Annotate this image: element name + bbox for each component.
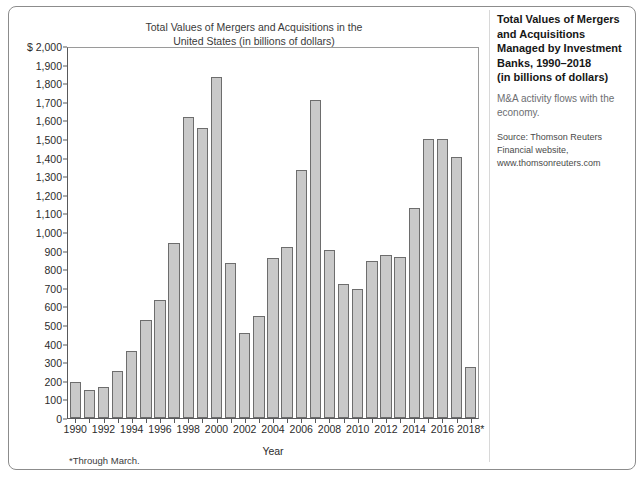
x-axis-tick-label: 2018* [457, 423, 484, 435]
x-axis-tick-mark [428, 419, 429, 423]
y-axis-tick-label: 800 [44, 264, 62, 276]
bar-1998 [183, 117, 194, 417]
bar-1993 [112, 371, 123, 418]
y-axis-tick-label: 1,700 [36, 97, 62, 109]
sidebar-source-line-2: Financial website, [497, 144, 625, 157]
y-axis-tick-label: 1,100 [36, 208, 62, 220]
bar-1991 [84, 390, 95, 418]
bars-layer [68, 47, 479, 418]
sidebar-title-line-3: Managed by Investment [497, 41, 625, 56]
bar-1994 [126, 351, 137, 418]
y-axis-tick-mark [63, 177, 67, 178]
sidebar-source-line-1: Source: Thomson Reuters [497, 131, 625, 144]
y-axis-tick-label: 1,000 [36, 227, 62, 239]
x-axis-tick-label: 2010 [346, 423, 369, 435]
y-axis-tick-label: 1,800 [36, 78, 62, 90]
x-axis-tick-label: 1992 [92, 423, 115, 435]
panel-divider [489, 10, 490, 462]
y-axis-tick-mark [63, 400, 67, 401]
bar-2002 [239, 333, 250, 418]
x-axis-tick-mark [315, 419, 316, 423]
x-axis-tick-mark [400, 419, 401, 423]
chart-title-line-1: Total Values of Mergers and Acquisitions… [54, 20, 454, 34]
bar-2015 [423, 139, 434, 418]
y-axis-tick-label: 600 [44, 301, 62, 313]
bar-2017 [451, 157, 462, 417]
y-axis-tick-mark [63, 140, 67, 141]
x-axis-tick-mark [287, 419, 288, 423]
y-axis-tick-mark [63, 84, 67, 85]
bar-1996 [154, 300, 165, 418]
bar-1992 [98, 387, 109, 418]
y-axis-tick-mark [63, 288, 67, 289]
y-axis-tick-label: 200 [44, 376, 62, 388]
y-axis-tick-label: 1,200 [36, 190, 62, 202]
x-axis-tick-mark [372, 419, 373, 423]
sidebar-source-line-3: www.thomsonreuters.com [497, 157, 625, 170]
y-axis-tick-mark [63, 381, 67, 382]
bar-2008 [324, 250, 335, 417]
x-axis-tick-mark [202, 419, 203, 423]
y-axis-tick-label: 0 [56, 413, 62, 425]
y-axis-tick-mark [63, 344, 67, 345]
y-axis-tick-label: 900 [44, 246, 62, 258]
sidebar-title: Total Values of Mergers and Acquisitions… [497, 12, 625, 85]
y-axis-tick-label: 100 [44, 394, 62, 406]
y-axis-tick-mark [63, 102, 67, 103]
chart-footnote: *Through March. [69, 455, 140, 466]
x-axis-tick-mark [146, 419, 147, 423]
x-axis-tick-label: 2014 [403, 423, 426, 435]
bar-2016 [437, 139, 448, 418]
chart-title-line-2: United States (in billions of dollars) [54, 34, 454, 48]
bar-2013 [394, 257, 405, 417]
bar-2001 [225, 263, 236, 418]
y-axis-tick-mark [63, 419, 67, 420]
x-axis-tick-label: 1990 [64, 423, 87, 435]
plot-area: 01002003004005006007008009001,0001,1001,… [67, 47, 479, 419]
chart-panel: Total Values of Mergers and Acquisitions… [14, 10, 484, 460]
bar-2011 [366, 261, 377, 418]
bar-1995 [140, 320, 151, 418]
x-axis-tick-mark [259, 419, 260, 423]
y-axis-tick-mark [63, 326, 67, 327]
y-axis-tick-label: 700 [44, 283, 62, 295]
y-axis-tick-mark [63, 65, 67, 66]
page-root: Total Values of Mergers and Acquisitions… [0, 0, 644, 478]
bar-1990 [70, 382, 81, 418]
sidebar-source: Source: Thomson Reuters Financial websit… [497, 131, 625, 170]
y-axis-tick-mark [63, 251, 67, 252]
y-axis-tick-label: 1,900 [36, 60, 62, 72]
y-axis-tick-label: 1,600 [36, 115, 62, 127]
y-axis-tick-label: 400 [44, 339, 62, 351]
y-axis-tick-label: 300 [44, 357, 62, 369]
y-axis-tick-label: 1,300 [36, 171, 62, 183]
x-axis-tick-mark [231, 419, 232, 423]
x-axis-tick-label: 2016 [431, 423, 454, 435]
x-axis-tick-label: 1996 [148, 423, 171, 435]
bar-2010 [352, 289, 363, 417]
bar-2007 [310, 100, 321, 418]
y-axis-tick-mark [63, 158, 67, 159]
y-axis-tick-label: 1,500 [36, 134, 62, 146]
x-axis-tick-mark [118, 419, 119, 423]
y-axis-tick-mark [63, 121, 67, 122]
x-axis-tick-label: 2000 [205, 423, 228, 435]
bar-2009 [338, 284, 349, 418]
y-axis-tick-label: 500 [44, 320, 62, 332]
bar-1999 [197, 128, 208, 418]
x-axis-tick-label: 2006 [290, 423, 313, 435]
x-axis-tick-mark [344, 419, 345, 423]
chart-title: Total Values of Mergers and Acquisitions… [54, 20, 454, 48]
x-axis-tick-label: 2002 [233, 423, 256, 435]
sidebar-title-line-5: (in billions of dollars) [497, 70, 625, 85]
y-axis-tick-mark [63, 307, 67, 308]
bar-2000 [211, 77, 222, 417]
bar-2012 [380, 255, 391, 418]
sidebar: Total Values of Mergers and Acquisitions… [497, 12, 625, 170]
y-axis-tick-label: $ 2,000 [27, 41, 62, 53]
sidebar-title-line-4: Banks, 1990–2018 [497, 56, 625, 71]
bar-2003 [253, 316, 264, 418]
bar-2004 [267, 258, 278, 418]
x-axis-tick-label: 1998 [177, 423, 200, 435]
x-axis-tick-mark [89, 419, 90, 423]
